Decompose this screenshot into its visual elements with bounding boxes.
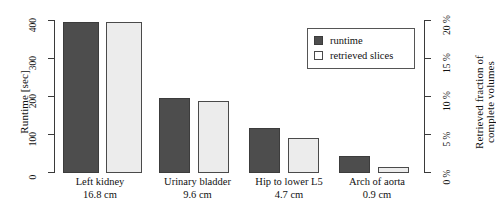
- left-tick-300: [48, 58, 54, 59]
- left-tick-0: [48, 172, 54, 173]
- legend-label-retrieved-slices: retrieved slices: [330, 50, 393, 61]
- category-label-hip-to-lower-l5: Hip to lower L5 4.7 cm: [240, 175, 338, 201]
- category-name: Left kidney: [55, 175, 145, 188]
- category-name: Hip to lower L5: [240, 175, 338, 188]
- right-tick-label-0pct: 0 %: [442, 160, 452, 194]
- right-tick-0pct: [425, 172, 431, 173]
- left-tick-label-0: 0: [28, 160, 38, 194]
- bar-runtime-left-kidney[interactable]: [63, 22, 99, 173]
- right-tick-15pct: [425, 58, 431, 59]
- right-tick-5pct: [425, 134, 431, 135]
- category-name: Urinary bladder: [150, 175, 245, 188]
- category-size: 9.6 cm: [150, 188, 245, 201]
- legend-item-retrieved-slices[interactable]: retrieved slices: [314, 48, 408, 63]
- bar-slices-arch-of-aorta[interactable]: [378, 167, 409, 173]
- category-name: Arch of aorta: [332, 175, 422, 188]
- bar-runtime-arch-of-aorta[interactable]: [339, 156, 370, 173]
- bar-runtime-hip-to-lower-l5[interactable]: [249, 128, 280, 173]
- legend: runtime retrieved slices: [307, 28, 415, 69]
- bar-slices-hip-to-lower-l5[interactable]: [288, 138, 319, 173]
- left-tick-label-400: 400: [28, 8, 38, 42]
- legend-swatch-runtime-icon: [314, 36, 323, 45]
- left-tick-100: [48, 134, 54, 135]
- right-tick-label-20pct: 20 %: [442, 8, 452, 42]
- left-tick-label-200: 200: [28, 84, 38, 118]
- left-tick-200: [48, 96, 54, 97]
- left-tick-400: [48, 20, 54, 21]
- legend-label-runtime: runtime: [330, 35, 363, 46]
- legend-swatch-retrieved-slices-icon: [314, 51, 323, 60]
- bar-runtime-urinary-bladder[interactable]: [159, 98, 190, 173]
- category-label-arch-of-aorta: Arch of aorta 0.9 cm: [332, 175, 422, 201]
- category-size: 0.9 cm: [332, 188, 422, 201]
- left-tick-label-100: 100: [28, 122, 38, 156]
- bar-slices-urinary-bladder[interactable]: [198, 101, 229, 173]
- left-tick-label-300: 300: [28, 46, 38, 80]
- right-tick-label-15pct: 15 %: [442, 46, 452, 80]
- bar-slices-left-kidney[interactable]: [106, 22, 142, 173]
- category-size: 16.8 cm: [55, 188, 145, 201]
- right-tick-10pct: [425, 96, 431, 97]
- category-label-urinary-bladder: Urinary bladder 9.6 cm: [150, 175, 245, 201]
- right-axis-title-line2: complete volumes: [484, 27, 496, 177]
- legend-item-runtime[interactable]: runtime: [314, 33, 408, 48]
- category-label-left-kidney: Left kidney 16.8 cm: [55, 175, 145, 201]
- right-tick-20pct: [425, 20, 431, 21]
- right-tick-label-10pct: 10 %: [442, 84, 452, 118]
- right-tick-label-5pct: 5 %: [442, 122, 452, 156]
- category-size: 4.7 cm: [240, 188, 338, 201]
